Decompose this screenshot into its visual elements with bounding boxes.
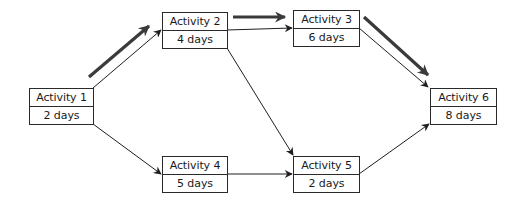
dependency-arrow-a1-a4 [93,124,161,174]
activity-name: Activity 5 [294,157,359,175]
critical-path-arrow-a1-a2 [89,26,149,77]
activity-node-a1: Activity 1 2 days [29,88,94,125]
activity-duration: 2 days [294,175,359,192]
activity-name: Activity 1 [30,89,93,107]
activity-name: Activity 2 [163,13,227,31]
network-diagram: Activity 1 2 days Activity 2 4 days Acti… [0,0,518,213]
critical-path-arrow-a3-a6 [364,17,428,75]
activity-duration: 2 days [30,107,93,124]
dependency-arrow-a3-a6 [359,28,428,87]
activity-name: Activity 4 [163,157,227,175]
activity-node-a2: Activity 2 4 days [162,12,228,49]
activity-node-a3: Activity 3 6 days [293,10,360,47]
dependency-arrow-a2-a3 [227,28,292,30]
activity-duration: 6 days [294,29,359,46]
activity-node-a5: Activity 5 2 days [293,156,360,193]
activity-node-a4: Activity 4 5 days [162,156,228,193]
activity-node-a6: Activity 6 8 days [430,88,497,125]
activity-duration: 5 days [163,175,227,192]
activity-duration: 4 days [163,31,227,48]
dependency-arrow-a1-a2 [93,30,161,88]
activity-name: Activity 6 [431,89,496,107]
activity-duration: 8 days [431,107,496,124]
dependency-arrow-a2-a5 [227,48,293,155]
activity-name: Activity 3 [294,11,359,29]
dependency-arrow-a5-a6 [359,124,429,174]
